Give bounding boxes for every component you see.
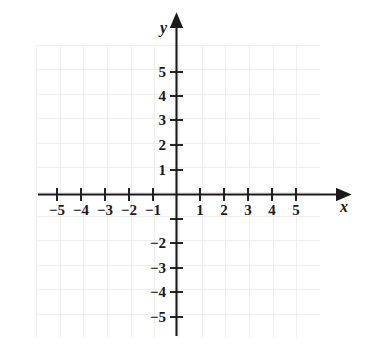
- x-tick-label--3: −3: [93, 203, 117, 218]
- x-axis-label: x: [340, 199, 348, 215]
- y-tick-label--5: −5: [132, 310, 166, 325]
- axes-svg: [0, 0, 367, 356]
- y-tick-label-3: 3: [136, 113, 166, 128]
- coordinate-plane-figure: −5 −4 −3 −2 −1 1 2 3 4 5 5 4 3 2 1 −2 −3…: [0, 0, 367, 356]
- y-axis-label: y: [160, 20, 167, 36]
- y-tick-label-2: 2: [136, 138, 166, 153]
- y-tick-label--3: −3: [132, 261, 166, 276]
- y-tick-label--2: −2: [132, 236, 166, 251]
- x-tick-label-5: 5: [284, 203, 308, 218]
- x-tick-label--1: −1: [141, 203, 165, 218]
- y-tick-label--4: −4: [132, 285, 166, 300]
- x-tick-label-2: 2: [212, 203, 236, 218]
- x-tick-label--4: −4: [69, 203, 93, 218]
- y-tick-label-1: 1: [136, 163, 166, 178]
- x-tick-label-4: 4: [260, 203, 284, 218]
- x-tick-label-3: 3: [236, 203, 260, 218]
- x-tick-label--2: −2: [117, 203, 141, 218]
- x-tick-label-1: 1: [188, 203, 212, 218]
- y-tick-label-5: 5: [136, 65, 166, 80]
- y-tick-label-4: 4: [136, 89, 166, 104]
- x-tick-label--5: −5: [45, 203, 69, 218]
